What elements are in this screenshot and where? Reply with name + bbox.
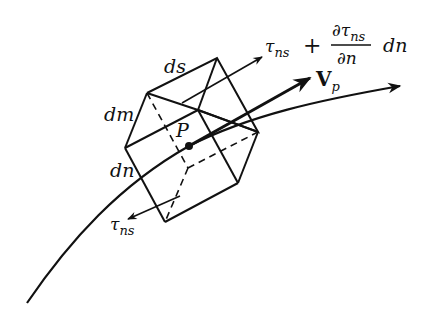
partial-denominator: ∂n — [337, 48, 357, 68]
plus-sign: + — [303, 33, 321, 58]
partial-numerator: ∂τns — [332, 20, 366, 44]
diagram-canvas: ds dm dn P Vp τns τns + ∂τns ∂n dn — [0, 0, 435, 321]
label-tau-upper-expression: τns + ∂τns ∂n dn — [265, 20, 407, 68]
svg-text:τns: τns — [265, 36, 290, 60]
shear-stress-upper-arrow — [182, 57, 262, 103]
label-velocity: Vp — [315, 67, 341, 94]
label-dm: dm — [104, 103, 134, 125]
point-p — [185, 142, 193, 150]
shear-stress-lower-arrow — [128, 196, 180, 219]
label-dn: dn — [110, 159, 134, 181]
streamline — [27, 86, 400, 303]
label-p: P — [175, 119, 190, 141]
fluid-element-cube — [125, 58, 258, 222]
dn-suffix: dn — [383, 34, 407, 56]
label-ds: ds — [164, 55, 186, 77]
